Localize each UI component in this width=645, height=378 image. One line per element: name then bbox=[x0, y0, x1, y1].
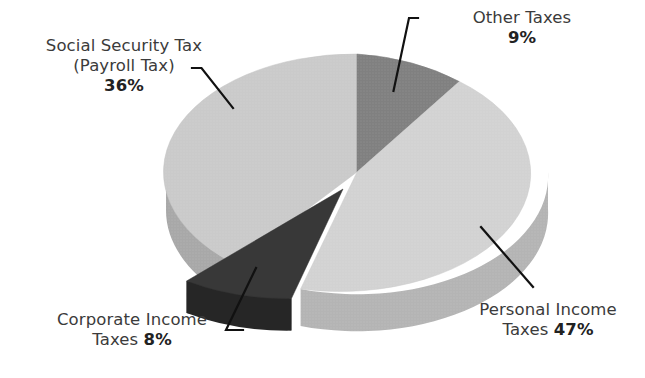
slice-label-corporate-income-line2-text: Taxes bbox=[92, 330, 143, 349]
slice-label-corporate-income: Corporate Income Taxes 8% bbox=[18, 310, 246, 350]
pie-chart-figure: Social Security Tax (Payroll Tax) 36% Ot… bbox=[0, 0, 645, 378]
slice-label-social-security-percent: 36% bbox=[8, 76, 240, 96]
slice-label-personal-income: Personal Income Taxes 47% bbox=[455, 300, 641, 340]
slice-label-personal-income-line2: Taxes 47% bbox=[455, 320, 641, 340]
slice-label-other-taxes-percent: 9% bbox=[432, 28, 612, 48]
slice-label-social-security: Social Security Tax (Payroll Tax) 36% bbox=[8, 36, 240, 96]
slice-label-other-taxes-line1: Other Taxes bbox=[432, 8, 612, 28]
slice-label-corporate-income-percent: 8% bbox=[144, 330, 172, 349]
slice-label-personal-income-line1: Personal Income bbox=[455, 300, 641, 320]
slice-label-other-taxes: Other Taxes 9% bbox=[432, 8, 612, 48]
slice-label-social-security-line1: Social Security Tax bbox=[8, 36, 240, 56]
slice-label-personal-income-percent: 47% bbox=[554, 320, 594, 339]
slice-label-corporate-income-line2: Taxes 8% bbox=[18, 330, 246, 350]
slice-label-social-security-line2: (Payroll Tax) bbox=[8, 56, 240, 76]
slice-label-personal-income-line2-text: Taxes bbox=[502, 320, 553, 339]
slice-label-corporate-income-line1: Corporate Income bbox=[18, 310, 246, 330]
